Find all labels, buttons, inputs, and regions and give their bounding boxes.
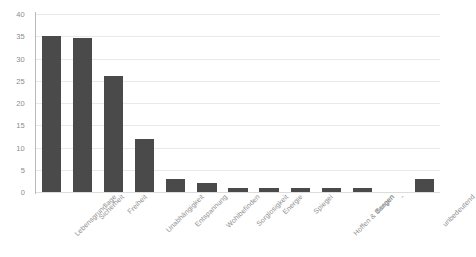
x-axis-tick-label: Wohlbefinden: [225, 193, 261, 229]
x-axis-tick-label: -: [399, 193, 406, 200]
bar: [166, 179, 185, 192]
bar: [42, 36, 61, 192]
bar: [104, 76, 123, 192]
bar: [197, 183, 216, 192]
x-axis-tick-label: Freiheit: [126, 193, 148, 215]
plot-area: [36, 14, 440, 192]
bar: [73, 38, 92, 192]
bar: [259, 188, 278, 192]
y-axis-tick-label: 20: [16, 99, 25, 108]
y-axis-tick-label: 15: [16, 121, 25, 130]
x-axis-tick-labels: LebensgrundlageSicherheitFreiheitUnabhän…: [36, 193, 440, 257]
bar: [228, 188, 247, 192]
bar: [322, 188, 341, 192]
y-axis-tick-labels: 0510152025303540: [0, 14, 30, 192]
y-axis-tick-label: 10: [16, 143, 25, 152]
y-axis-tick-label: 0: [21, 188, 25, 197]
x-axis-tick-label: Spiegel: [312, 193, 334, 215]
y-axis-tick-label: 35: [16, 32, 25, 41]
bar: [291, 188, 310, 192]
y-axis-tick-label: 5: [21, 165, 25, 174]
bar: [135, 139, 154, 192]
bar: [415, 179, 434, 192]
x-axis-tick-label: unbedeutend: [442, 193, 476, 228]
y-axis-tick-label: 25: [16, 76, 25, 85]
x-axis-tick-label: Lebensgrundlage: [73, 193, 117, 237]
bar: [353, 188, 372, 192]
y-axis-tick-label: 30: [16, 54, 25, 63]
x-axis-tick-label: Sorgen: [374, 193, 395, 214]
y-axis-tick-label: 40: [16, 10, 25, 19]
bars: [36, 14, 440, 192]
